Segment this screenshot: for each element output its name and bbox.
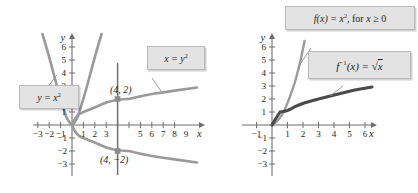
callout-f-inverse-definition: f−1(x) = √x: [308, 51, 411, 79]
callout-x-equals-y-squared: x = y2: [147, 46, 205, 70]
callout-f-definition-text: f(x) = x2, for x ≥ 0: [314, 12, 386, 24]
svg-text:5: 5: [138, 129, 143, 139]
svg-text:4: 4: [332, 129, 337, 139]
svg-text:6: 6: [261, 42, 266, 52]
callout-x-equals-y-squared-text: x = y2: [164, 52, 188, 64]
svg-text:1: 1: [261, 107, 266, 117]
marker-4-neg2: [115, 148, 121, 154]
callout-y-equals-x-squared: y = x2: [19, 85, 79, 109]
callout-y-equals-x-squared-text: y = x2: [37, 91, 61, 103]
point-label-4-neg2-text: (4, −2): [100, 154, 128, 165]
leader-line-x-equals-y-squared: [152, 78, 161, 91]
point-label-4-2: (4, 2): [110, 84, 132, 95]
svg-text:−2: −2: [57, 146, 67, 156]
svg-text:7: 7: [161, 129, 166, 139]
svg-text:−3: −3: [57, 159, 67, 169]
right-graph-panel: x y −1 1 2 3 4 5 6 6 5 4 3 2 1 −1 −2 −3: [212, 0, 418, 193]
svg-text:6: 6: [363, 129, 368, 139]
curve-f-x-squared: [272, 41, 305, 125]
svg-text:4: 4: [261, 68, 266, 78]
svg-text:−2: −2: [257, 146, 267, 156]
point-label-4-neg2: (4, −2): [100, 154, 128, 165]
point-label-4-2-text: (4, 2): [110, 84, 132, 95]
callout-f-inverse-definition-text: f−1(x) = √x: [336, 59, 382, 72]
left-axis-x-name: x: [196, 128, 202, 139]
svg-text:3: 3: [261, 81, 266, 91]
svg-text:5: 5: [261, 55, 266, 65]
callout-f-definition: f(x) = x2, for x ≥ 0: [285, 6, 415, 30]
curve-x-equals-y-squared-lower: [72, 125, 197, 163]
marker-4-2: [115, 96, 121, 102]
svg-text:−1: −1: [57, 133, 67, 143]
right-axis-x-name: x: [368, 128, 374, 139]
left-graph-panel: x y −3 −2 −1 1 2 3 5 6 7 8 9 6 5 4 3: [0, 0, 212, 193]
svg-text:6: 6: [61, 42, 66, 52]
svg-text:6: 6: [150, 129, 155, 139]
svg-text:2: 2: [93, 129, 98, 139]
svg-text:2: 2: [301, 129, 306, 139]
curve-x-equals-y-squared-upper: [72, 88, 197, 126]
svg-text:−1: −1: [257, 133, 267, 143]
inverse-function-figure: x y −3 −2 −1 1 2 3 5 6 7 8 9 6 5 4 3: [0, 0, 418, 193]
svg-text:4: 4: [61, 68, 66, 78]
svg-text:3: 3: [104, 129, 109, 139]
svg-text:5: 5: [347, 129, 352, 139]
svg-text:1: 1: [81, 129, 86, 139]
svg-text:1: 1: [285, 129, 290, 139]
svg-text:2: 2: [261, 94, 266, 104]
svg-text:8: 8: [172, 129, 177, 139]
right-y-tick-labels: 6 5 4 3 2 1 −1 −2 −3: [257, 42, 267, 169]
svg-text:3: 3: [316, 129, 321, 139]
svg-text:5: 5: [61, 55, 66, 65]
svg-text:−3: −3: [33, 129, 43, 139]
svg-text:9: 9: [184, 129, 189, 139]
svg-text:−3: −3: [257, 159, 267, 169]
svg-text:−2: −2: [44, 129, 54, 139]
